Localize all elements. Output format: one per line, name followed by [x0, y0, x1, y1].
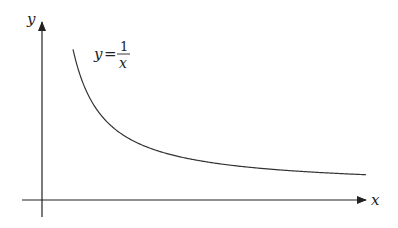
- equation-lhs: y: [93, 45, 103, 63]
- y-axis-label: y: [26, 10, 36, 28]
- x-axis-label: x: [371, 191, 380, 209]
- hyperbola-curve: [73, 49, 366, 174]
- equation-denominator: x: [119, 55, 127, 71]
- graph-canvas: y x y = 1 x: [0, 0, 398, 228]
- equation-label: y = 1 x: [93, 39, 130, 71]
- equation-equals: =: [104, 45, 117, 63]
- equation-numerator: 1: [120, 39, 128, 54]
